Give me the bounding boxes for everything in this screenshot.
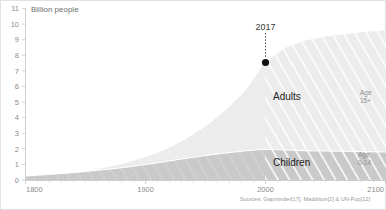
year-annotation-label: 2017 — [255, 22, 275, 32]
y-tick-8: 8 — [15, 51, 19, 60]
historical-hatch-texture — [25, 63, 265, 181]
y-tick-2: 2 — [15, 145, 19, 154]
y-tick-6: 6 — [15, 82, 19, 91]
y-tick-1: 1 — [15, 160, 19, 169]
x-tick-1800: 1800 — [26, 185, 43, 194]
y-tick-10: 10 — [11, 20, 19, 29]
x-tick-labels: 1800 1900 2000 2100 — [26, 185, 384, 194]
adults-area-label: Adults — [273, 91, 301, 102]
x-tick-2000: 2000 — [257, 185, 274, 194]
x-tick-2100: 2100 — [367, 185, 384, 194]
y-axis-unit-label: Billion people — [31, 5, 79, 14]
y-tick-4: 4 — [15, 113, 19, 122]
y-tick-7: 7 — [15, 67, 19, 76]
age-adults-annotation: Age 15+ — [360, 89, 372, 104]
y-axis — [22, 8, 26, 180]
age-children-annotation: Age 0-14 — [358, 151, 371, 166]
age-children-line2: 0-14 — [358, 159, 371, 166]
y-tick-11: 11 — [11, 4, 19, 13]
children-area-label: Children — [273, 157, 310, 168]
y-tick-5: 5 — [15, 98, 19, 107]
year-2017-marker — [262, 59, 269, 66]
chart-canvas: 11 10 9 8 7 6 5 4 3 2 1 0 1800 1900 2000… — [0, 0, 386, 210]
population-chart: 11 10 9 8 7 6 5 4 3 2 1 0 1800 1900 2000… — [0, 0, 386, 210]
x-axis — [25, 181, 386, 185]
y-tick-3: 3 — [15, 129, 19, 138]
y-tick-0: 0 — [15, 176, 19, 185]
age-children-line1: Age — [358, 151, 370, 159]
age-adults-line1: Age — [360, 89, 372, 97]
y-tick-labels: 11 10 9 8 7 6 5 4 3 2 1 0 — [11, 4, 19, 184]
year-2017-annotation — [262, 33, 269, 66]
age-adults-line2: 15+ — [360, 97, 371, 104]
x-tick-1900: 1900 — [137, 185, 154, 194]
y-tick-9: 9 — [15, 35, 19, 44]
source-credit: Sources: Gapminder[17], Maddison[2] & UN… — [240, 196, 371, 202]
